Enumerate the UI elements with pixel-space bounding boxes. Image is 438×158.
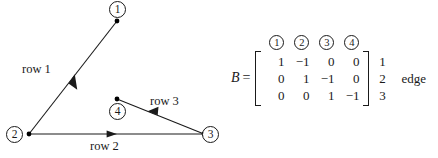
matrix-cell: 0 (262, 87, 287, 104)
node-label-3: 3 (202, 126, 219, 143)
incidence-matrix-figure: 1 2 3 4 row 1 row 2 row 3 B = 1 2 (0, 0, 438, 158)
matrix-body: 1 −1 0 0 0 1 −1 0 0 0 (255, 51, 387, 106)
column-header-cell: 3 (314, 32, 339, 50)
column-header-4: 4 (344, 35, 359, 50)
edge-label-row-1: row 1 (22, 62, 51, 77)
matrix-panel: B = 1 2 3 4 (219, 0, 438, 158)
matrix-row: 0 1 −1 0 (262, 70, 362, 87)
matrix-grid: 1 −1 0 0 0 1 −1 0 0 0 (261, 51, 363, 106)
edge-label-row-2: row 2 (90, 139, 119, 154)
node-label-2: 2 (6, 126, 23, 143)
matrix-row: 0 0 1 −1 (262, 87, 362, 104)
row-label-2: 2 (377, 70, 387, 87)
column-header-2: 2 (294, 35, 309, 50)
node-dot-4 (115, 97, 120, 102)
column-header-cell: 1 (264, 32, 289, 50)
edge-label-row-3: row 3 (150, 94, 179, 109)
column-header-3: 3 (319, 35, 334, 50)
matrix-cell: 0 (287, 87, 312, 104)
column-header-1: 1 (269, 35, 284, 50)
equals-sign: = (243, 52, 256, 86)
row-label-1: 1 (377, 53, 387, 70)
matrix-cell: 0 (262, 70, 287, 87)
graph-panel: 1 2 3 4 row 1 row 2 row 3 (0, 0, 219, 158)
arrowhead-row-2 (107, 130, 117, 137)
matrix-cell: 0 (337, 70, 362, 87)
matrix-cell: −1 (312, 70, 337, 87)
edge-caption-label: edge (387, 52, 426, 87)
matrix-cell: 1 (312, 87, 337, 104)
node-dot-2 (27, 132, 32, 137)
matrix-name-label: B (231, 52, 243, 86)
graph-drawing (0, 0, 219, 158)
node-label-4: 4 (109, 103, 126, 120)
matrix-row-labels: 1 2 3 (369, 51, 387, 106)
matrix-column-headers: 1 2 3 4 (255, 32, 387, 50)
matrix-cell: 0 (337, 53, 362, 70)
column-header-cell: 4 (339, 32, 364, 50)
matrix-cell: 1 (262, 53, 287, 70)
node-dot-1 (115, 19, 120, 24)
column-header-cell: 2 (289, 32, 314, 50)
matrix-cell: −1 (287, 53, 312, 70)
matrix-cell: 0 (312, 53, 337, 70)
matrix-equation: B = 1 2 3 4 (231, 32, 426, 106)
matrix-with-headers: 1 2 3 4 1 (255, 32, 387, 106)
matrix-cell: −1 (337, 87, 362, 104)
node-label-1: 1 (109, 1, 126, 18)
matrix-cell: 1 (287, 70, 312, 87)
row-label-3: 3 (377, 87, 387, 104)
arrowhead-row-1 (66, 74, 83, 91)
matrix-row: 1 −1 0 0 (262, 53, 362, 70)
